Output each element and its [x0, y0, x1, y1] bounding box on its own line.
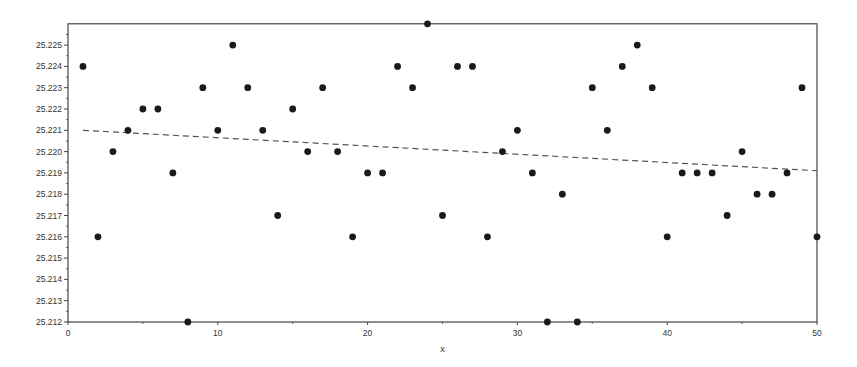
y-tick-label: 25.212	[36, 317, 62, 327]
data-point	[574, 319, 581, 326]
data-point	[694, 170, 701, 177]
y-tick-label: 25.219	[36, 168, 62, 178]
data-point	[709, 170, 716, 177]
data-point	[319, 84, 326, 91]
data-point	[169, 170, 176, 177]
data-point	[394, 63, 401, 70]
y-tick-label: 25.222	[36, 104, 62, 114]
data-point	[544, 319, 551, 326]
data-point	[814, 233, 821, 240]
data-point	[334, 148, 341, 155]
data-point	[589, 84, 596, 91]
data-point	[799, 84, 806, 91]
y-tick-label: 25.223	[36, 83, 62, 93]
data-point	[754, 191, 761, 198]
data-point	[214, 127, 221, 134]
data-point	[724, 212, 731, 219]
data-point	[469, 63, 476, 70]
chart-canvas: 25.21225.21325.21425.21525.21625.21725.2…	[0, 0, 857, 367]
data-point	[409, 84, 416, 91]
x-tick-label: 10	[213, 328, 223, 338]
y-tick-label: 25.213	[36, 296, 62, 306]
data-point	[349, 233, 356, 240]
data-point	[529, 170, 536, 177]
data-point	[619, 63, 626, 70]
data-point	[679, 170, 686, 177]
y-tick-label: 25.216	[36, 232, 62, 242]
data-point	[229, 42, 236, 49]
y-tick-label: 25.214	[36, 274, 62, 284]
y-tick-label: 25.221	[36, 125, 62, 135]
data-point	[739, 148, 746, 155]
data-point	[364, 170, 371, 177]
y-tick-label: 25.220	[36, 147, 62, 157]
data-point	[125, 127, 132, 134]
data-point	[559, 191, 566, 198]
data-point	[244, 84, 251, 91]
y-tick-label: 25.218	[36, 189, 62, 199]
data-point	[424, 20, 431, 27]
data-point	[604, 127, 611, 134]
data-point	[664, 233, 671, 240]
data-point	[110, 148, 117, 155]
data-point	[769, 191, 776, 198]
data-point	[274, 212, 281, 219]
data-point	[439, 212, 446, 219]
data-point	[289, 106, 296, 113]
y-tick-label: 25.215	[36, 253, 62, 263]
y-tick-label: 25.217	[36, 211, 62, 221]
data-point	[80, 63, 87, 70]
y-tick-label: 25.224	[36, 61, 62, 71]
data-point	[649, 84, 656, 91]
x-tick-label: 50	[812, 328, 822, 338]
trend-line	[83, 130, 817, 170]
x-tick-label: 40	[662, 328, 672, 338]
data-point	[259, 127, 266, 134]
data-point	[484, 233, 491, 240]
scatter-chart: 25.21225.21325.21425.21525.21625.21725.2…	[0, 0, 857, 367]
x-tick-label: 20	[363, 328, 373, 338]
data-point	[514, 127, 521, 134]
data-point	[454, 63, 461, 70]
data-point	[199, 84, 206, 91]
data-point	[379, 170, 386, 177]
y-tick-label: 25.225	[36, 40, 62, 50]
data-point	[184, 319, 191, 326]
data-point	[634, 42, 641, 49]
plot-frame	[68, 24, 817, 322]
data-point	[784, 170, 791, 177]
data-point	[499, 148, 506, 155]
x-axis-title: x	[440, 344, 445, 354]
data-point	[95, 233, 102, 240]
x-tick-label: 30	[513, 328, 523, 338]
data-point	[140, 106, 147, 113]
data-point	[154, 106, 161, 113]
data-point	[304, 148, 311, 155]
x-tick-label: 0	[66, 328, 71, 338]
